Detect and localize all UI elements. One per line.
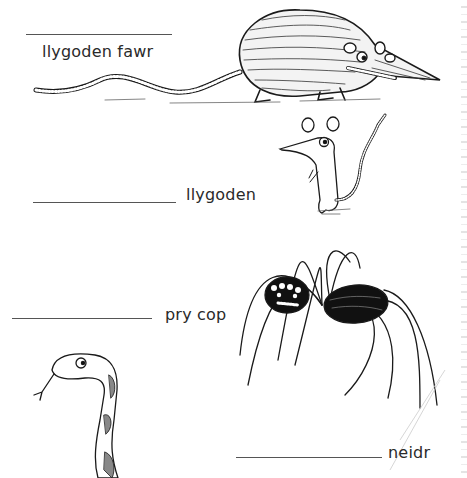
label-spider: pry cop xyxy=(165,305,226,324)
snake-illustration xyxy=(34,354,118,478)
illustrations xyxy=(0,0,467,478)
answer-blank-mouse[interactable] xyxy=(33,202,176,203)
mouse-illustration xyxy=(280,115,385,214)
label-mouse: llygoden xyxy=(186,185,256,204)
label-rat: llygoden fawr xyxy=(42,42,153,61)
label-snake: neidr xyxy=(388,443,430,462)
spider-illustration xyxy=(240,251,437,408)
page-edge-shadow xyxy=(461,0,467,478)
answer-blank-snake[interactable] xyxy=(236,457,382,458)
answer-blank-rat[interactable] xyxy=(26,34,172,35)
answer-blank-spider[interactable] xyxy=(12,318,152,319)
